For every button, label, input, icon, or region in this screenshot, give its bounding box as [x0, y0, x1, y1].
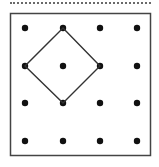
grid-dot: [22, 138, 28, 144]
grid-dot: [60, 138, 66, 144]
grid-dot: [60, 63, 66, 69]
grid-dot: [134, 138, 140, 144]
grid-dot: [97, 100, 103, 106]
grid-dot: [22, 100, 28, 106]
grid-dot: [22, 25, 28, 31]
geoboard-frame: [11, 14, 151, 156]
grid-dot: [97, 25, 103, 31]
grid-dot: [97, 138, 103, 144]
geoboard-diagram: [0, 0, 159, 167]
grid-dot: [134, 63, 140, 69]
grid-dot: [134, 100, 140, 106]
grid-dot: [134, 25, 140, 31]
